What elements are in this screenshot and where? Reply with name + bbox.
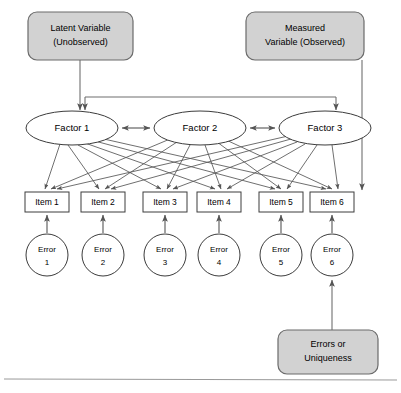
item-node-1: Item 1 <box>25 192 69 212</box>
error-2-circle <box>82 234 124 276</box>
loading-f2-item3 <box>167 145 190 189</box>
loading-f1-item3 <box>78 145 161 189</box>
item-node-5: Item 5 <box>259 192 303 212</box>
latent-variable-line2: (Unobserved) <box>53 37 108 47</box>
loading-f3-item1 <box>57 136 288 189</box>
bottom-frame-divider <box>4 379 397 380</box>
error-4-line2: 4 <box>217 258 222 267</box>
error-node-5: Error 5 <box>260 234 302 276</box>
error-node-3: Error 3 <box>144 234 186 276</box>
callout-errors-uniqueness: Errors or Uniqueness <box>278 330 378 374</box>
error-node-6: Error 6 <box>311 234 353 276</box>
item-node-2: Item 2 <box>81 192 125 212</box>
latent-variable-line1: Latent Variable <box>51 23 111 33</box>
errors-uniqueness-line1: Errors or <box>310 339 345 349</box>
latent-variable-box <box>28 12 133 60</box>
item-node-3: Item 3 <box>143 192 187 212</box>
error-6-line2: 6 <box>330 258 335 267</box>
factor-1-label: Factor 1 <box>55 122 90 133</box>
measured-variable-box <box>246 12 364 60</box>
error-node-2: Error 2 <box>82 234 124 276</box>
error-3-line1: Error <box>156 245 174 254</box>
error-node-1: Error 1 <box>26 234 68 276</box>
factor-node-1: Factor 1 <box>26 111 118 145</box>
callout-measured-variable: Measured Variable (Observed) <box>246 12 364 60</box>
error-3-line2: 3 <box>163 258 168 267</box>
error-2-line2: 2 <box>101 258 106 267</box>
error-5-line2: 5 <box>279 258 284 267</box>
errors-uniqueness-line2: Uniqueness <box>304 353 352 363</box>
error-3-circle <box>144 234 186 276</box>
item-2-label: Item 2 <box>91 197 115 207</box>
loading-f3-item3 <box>173 142 297 189</box>
item-5-label: Item 5 <box>269 197 293 207</box>
loading-f1-item2 <box>68 145 99 189</box>
measured-variable-line1: Measured <box>285 23 325 33</box>
item-1-label: Item 1 <box>35 197 59 207</box>
path-diagram: Latent Variable (Unobserved) Measured Va… <box>0 0 401 393</box>
item-6-label: Item 6 <box>320 197 344 207</box>
error-4-circle <box>198 234 240 276</box>
error-6-circle <box>311 234 353 276</box>
item-4-label: Item 4 <box>207 197 231 207</box>
error-to-item-paths <box>47 215 332 233</box>
loading-f1-item1 <box>45 144 60 189</box>
callout-latent-variable: Latent Variable (Unobserved) <box>28 12 133 60</box>
diagram-canvas: Latent Variable (Unobserved) Measured Va… <box>0 0 401 393</box>
factor-3-label: Factor 3 <box>308 122 343 133</box>
error-5-line1: Error <box>272 245 290 254</box>
error-1-line1: Error <box>38 245 56 254</box>
error-6-line1: Error <box>323 245 341 254</box>
error-node-4: Error 4 <box>198 234 240 276</box>
error-5-circle <box>260 234 302 276</box>
loading-f1-item4 <box>85 143 215 189</box>
factor-2-label: Factor 2 <box>183 122 218 133</box>
error-1-circle <box>26 234 68 276</box>
item-node-4: Item 4 <box>197 192 241 212</box>
item-3-label: Item 3 <box>153 197 177 207</box>
error-4-line1: Error <box>210 245 228 254</box>
loading-f3-item4 <box>227 144 305 189</box>
loading-f3-item6 <box>332 145 338 189</box>
factor-node-3: Factor 3 <box>279 111 371 145</box>
error-1-line2: 1 <box>45 258 50 267</box>
factor-node-2: Factor 2 <box>154 111 246 145</box>
measured-variable-line2: Variable (Observed) <box>265 37 345 47</box>
errors-uniqueness-box <box>278 330 378 374</box>
error-2-line1: Error <box>94 245 112 254</box>
item-node-6: Item 6 <box>310 192 354 212</box>
